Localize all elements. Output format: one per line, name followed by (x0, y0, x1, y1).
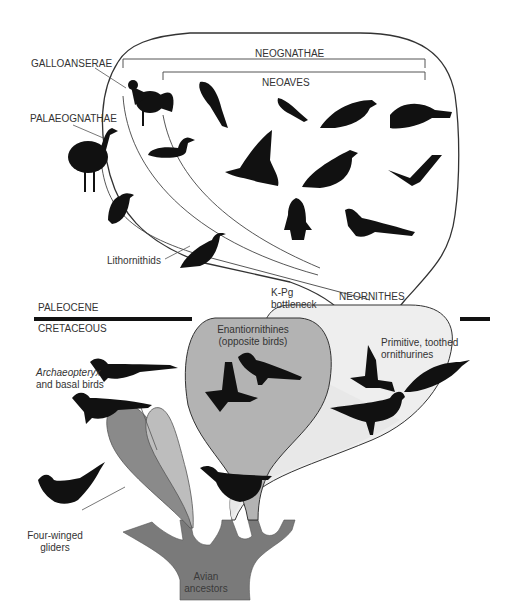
archaeopteryx-label-line2: and basal birds (36, 379, 104, 391)
enantiornithines-label-line2: (opposite birds) (213, 336, 293, 348)
lithornithids-label: Lithornithids (107, 255, 161, 267)
ancestors-label-line1: Avian (176, 571, 236, 583)
fourwinged-label-line1: Four-winged (20, 530, 90, 542)
galloanserae-label: GALLOANSERAE (31, 58, 112, 70)
kpg-boundary-bar-left (34, 317, 192, 321)
ornithurines-label-line2: ornithurines (381, 349, 433, 361)
enantiornithines-label-line1: Enantiornithines (213, 324, 293, 336)
archaeopteryx-name: Archaeopteryx (36, 367, 100, 378)
kpg-label-line1: K-Pg (271, 287, 293, 299)
neognathae-label: NEOGNATHAE (255, 48, 324, 60)
palaeognathae-label: PALAEOGNATHAE (30, 113, 117, 125)
paleocene-label: PALEOCENE (38, 302, 98, 314)
ornithurines-label-line1: Primitive, toothed (381, 337, 458, 349)
kpg-boundary-bar-right (460, 317, 490, 321)
neoaves-label: NEOAVES (262, 77, 310, 89)
archaeopteryx-label-line1: Archaeopteryx (36, 367, 100, 379)
kpg-label-line2: bottleneck (271, 299, 317, 311)
ancestors-label-line2: ancestors (176, 583, 236, 595)
neornithes-label: NEORNITHES (339, 291, 405, 303)
fourwinged-label-line2: gliders (20, 542, 90, 554)
cretaceous-label: CRETACEOUS (38, 323, 107, 335)
microraptor-silhouette (38, 462, 105, 504)
